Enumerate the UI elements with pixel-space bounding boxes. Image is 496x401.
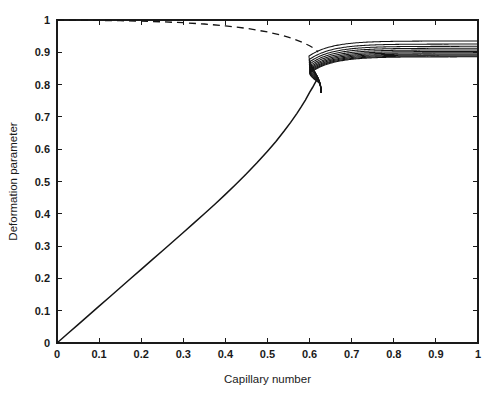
figure-container: 00.10.20.30.40.50.60.70.80.91 00.10.20.3… bbox=[0, 0, 496, 401]
y-tick-label: 0.6 bbox=[35, 143, 50, 155]
x-tick-label: 0.6 bbox=[302, 348, 317, 360]
x-tick-label: 0.4 bbox=[218, 348, 234, 360]
data-curves bbox=[57, 20, 478, 343]
x-tick-label: 1 bbox=[475, 348, 481, 360]
curve-branch-09 bbox=[310, 55, 478, 93]
y-tick-label: 0.9 bbox=[35, 46, 50, 58]
curve-branch-11 bbox=[310, 57, 478, 93]
y-tick-label: 0.1 bbox=[35, 305, 50, 317]
curve-lower-branch bbox=[57, 77, 318, 343]
y-tick-label: 0.2 bbox=[35, 272, 50, 284]
x-tick-label: 0 bbox=[54, 348, 60, 360]
y-tick-label: 0.4 bbox=[35, 208, 51, 220]
axis-ticks bbox=[57, 20, 478, 343]
x-axis-tick-labels: 00.10.20.30.40.50.60.70.80.91 bbox=[54, 348, 481, 360]
y-tick-label: 0.7 bbox=[35, 111, 50, 123]
y-tick-label: 0.3 bbox=[35, 240, 50, 252]
curve-upper-branch-dashed bbox=[57, 20, 318, 52]
x-tick-label: 0.3 bbox=[176, 348, 191, 360]
x-tick-label: 0.2 bbox=[134, 348, 149, 360]
y-tick-label: 0 bbox=[44, 337, 50, 349]
x-tick-label: 0.9 bbox=[428, 348, 443, 360]
x-tick-label: 0.7 bbox=[344, 348, 359, 360]
x-tick-label: 0.8 bbox=[386, 348, 401, 360]
x-axis-title: Capillary number bbox=[224, 373, 311, 385]
y-axis-tick-labels: 00.10.20.30.40.50.60.70.80.91 bbox=[35, 14, 51, 349]
plot-frame bbox=[57, 20, 478, 343]
chart-svg: 00.10.20.30.40.50.60.70.80.91 00.10.20.3… bbox=[0, 0, 496, 401]
x-tick-label: 0.1 bbox=[91, 348, 106, 360]
x-tick-label: 0.5 bbox=[260, 348, 275, 360]
y-tick-label: 0.8 bbox=[35, 79, 50, 91]
y-tick-label: 1 bbox=[44, 14, 50, 26]
y-tick-label: 0.5 bbox=[35, 176, 50, 188]
y-axis-title: Deformation parameter bbox=[7, 122, 19, 240]
curve-branch-10 bbox=[310, 56, 478, 93]
